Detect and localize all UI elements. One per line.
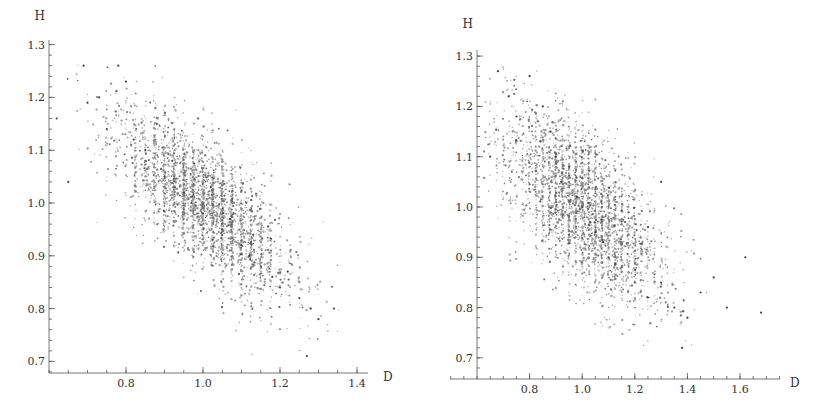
y-tick-label: 1.2 xyxy=(28,91,46,104)
y-axis-label: H xyxy=(463,17,473,31)
x-axis-label: D xyxy=(383,370,393,384)
data-points xyxy=(483,66,762,349)
x-tick-label: 1.4 xyxy=(679,383,697,396)
y-tick-label: 0.9 xyxy=(456,251,474,264)
x-axis: 0.81.01.21.41.6D xyxy=(450,373,800,396)
data-points xyxy=(56,65,340,358)
y-tick-label: 1.0 xyxy=(456,201,474,214)
y-tick-label: 0.8 xyxy=(28,303,46,316)
x-tick-label: 1.6 xyxy=(731,383,749,396)
right-scatter-plot: 0.70.80.91.01.11.21.3H0.81.01.21.41.6D xyxy=(450,17,800,396)
y-tick-label: 0.9 xyxy=(28,250,46,263)
y-axis: 0.70.80.91.01.11.21.3H xyxy=(28,9,56,373)
x-tick-label: 1.0 xyxy=(194,377,212,390)
x-tick-label: 0.8 xyxy=(117,377,135,390)
y-tick-label: 1.3 xyxy=(456,50,474,63)
left-scatter-plot: 0.70.80.91.01.11.21.3H0.81.01.21.4D xyxy=(28,9,393,390)
scatter-figure: 0.70.80.91.01.11.21.3H0.81.01.21.4D 0.70… xyxy=(0,0,824,420)
y-tick-label: 1.3 xyxy=(28,39,46,52)
y-tick-label: 0.7 xyxy=(456,352,474,365)
y-axis: 0.70.80.91.01.11.21.3H xyxy=(456,17,484,379)
y-tick-label: 1.2 xyxy=(456,100,474,113)
y-axis-label: H xyxy=(35,9,45,23)
y-tick-label: 1.1 xyxy=(456,151,474,164)
y-tick-label: 1.0 xyxy=(28,197,46,210)
x-tick-label: 1.2 xyxy=(626,383,644,396)
y-tick-label: 0.7 xyxy=(28,355,46,368)
x-tick-label: 1.4 xyxy=(348,377,366,390)
x-tick-label: 1.0 xyxy=(573,383,591,396)
x-axis: 0.81.01.21.4D xyxy=(49,367,393,390)
x-axis-label: D xyxy=(790,376,800,390)
y-tick-label: 1.1 xyxy=(28,144,46,157)
y-tick-label: 0.8 xyxy=(456,302,474,315)
x-tick-label: 1.2 xyxy=(271,377,289,390)
x-tick-label: 0.8 xyxy=(521,383,539,396)
